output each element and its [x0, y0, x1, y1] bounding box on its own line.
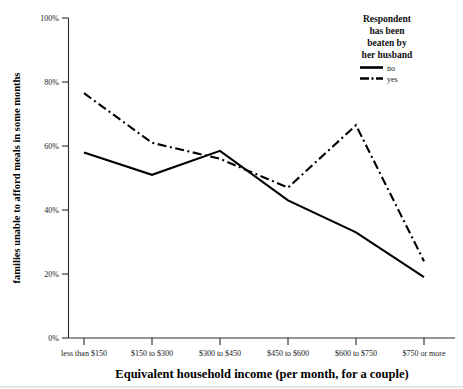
legend-title-line: has been	[369, 26, 405, 36]
x-tick-label: $150 to $300	[131, 349, 173, 358]
legend-title-line: her husband	[362, 50, 414, 60]
x-tick-label: $600 to $750	[335, 349, 377, 358]
line-chart: 100% 80% 60% 40% 20% 0% less than $150 $…	[0, 0, 463, 389]
y-tick-label: 40%	[44, 206, 59, 215]
x-tick-label: $750 or more	[402, 349, 446, 358]
legend-label-yes: yes	[387, 75, 398, 84]
legend-title-line: beaten by	[367, 38, 407, 48]
y-tick-label: 20%	[44, 270, 59, 279]
y-tick-label: 60%	[44, 142, 59, 151]
y-tick-label: 100%	[40, 14, 59, 23]
y-tick-label: 0%	[48, 334, 59, 343]
chart-container: 100% 80% 60% 40% 20% 0% less than $150 $…	[0, 0, 463, 389]
legend-label-no: no	[387, 64, 395, 73]
y-axis-title: families unable to afford meals in some …	[11, 73, 22, 284]
y-tick-label: 80%	[44, 78, 59, 87]
x-tick-label: less than $150	[61, 349, 107, 358]
x-tick-label: $300 to $450	[199, 349, 241, 358]
x-tick-label: $450 to $600	[267, 349, 309, 358]
x-axis-title: Equivalent household income (per month, …	[115, 367, 408, 381]
legend-title-line: Respondent	[363, 14, 412, 24]
